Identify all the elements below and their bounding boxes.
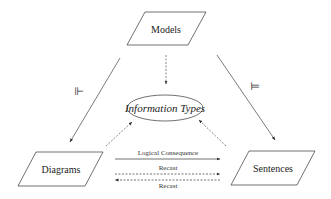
edge-models-diagrams xyxy=(70,58,120,142)
models-label: Models xyxy=(151,24,181,35)
edge-sentences-info xyxy=(199,120,226,146)
models-symbol-right: ⊨ xyxy=(250,80,260,93)
recast-forward-label: Recast xyxy=(159,164,178,172)
logical-consequence-label: Logical Consequence xyxy=(138,149,198,157)
information-types-label: Information Types xyxy=(125,102,205,114)
forces-symbol-left: ⊩ xyxy=(74,85,84,98)
edge-diagrams-info xyxy=(106,122,132,146)
recast-backward-label: Recast xyxy=(159,182,178,190)
sentences-label: Sentences xyxy=(253,163,293,174)
diagrams-label: Diagrams xyxy=(42,164,81,175)
edge-models-sentences xyxy=(217,55,275,140)
